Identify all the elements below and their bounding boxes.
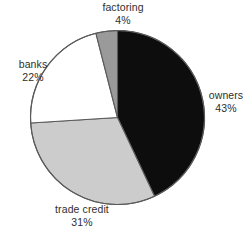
pie-label-banks-name: banks [4,58,62,71]
pie-label-banks-value: 22% [4,71,62,84]
pie-label-owners: owners 43% [204,89,246,114]
pie-label-trade-credit-name: trade credit [30,203,134,216]
pie-label-factoring-name: factoring [0,1,246,14]
pie-slices [30,30,204,204]
pie-label-owners-name: owners [204,89,246,102]
pie-label-owners-value: 43% [204,102,246,115]
pie-label-banks: banks 22% [4,58,62,83]
pie-label-trade-credit: trade credit 31% [30,203,134,228]
pie-chart-graphic [0,0,246,232]
pie-label-factoring-value: 4% [0,14,246,27]
pie-label-factoring: factoring 4% [0,1,246,26]
pie-chart: factoring 4% banks 22% owners 43% trade … [0,0,246,232]
pie-label-trade-credit-value: 31% [30,216,134,229]
